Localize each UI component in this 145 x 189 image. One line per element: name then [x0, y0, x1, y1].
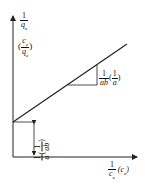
y-alt-den-sub: e — [26, 52, 28, 57]
intercept-den: a — [42, 155, 51, 161]
slope-num: 1 — [101, 70, 107, 78]
x-label-sub: e — [113, 175, 115, 180]
intercept-alt-den: ab — [42, 142, 51, 152]
diagram: 1qe (ceqe) 1ab(1a) 1a(1ab) 1ce (ce) — [0, 0, 145, 189]
y-axis-alt-label: (ceqe) — [18, 37, 32, 57]
y-label-sub: e — [25, 26, 27, 31]
intercept-alt-num: 1 — [34, 144, 42, 150]
slope-label: 1ab(1a) — [99, 70, 120, 87]
intercept-num: 1 — [34, 155, 42, 161]
x-alt-close: ) — [126, 165, 129, 174]
x-axis-label: 1ce (ce) — [108, 161, 129, 180]
x-label-num: 1 — [109, 161, 115, 169]
slope-den: ab — [99, 78, 109, 87]
slope-alt-num: 1 — [112, 70, 118, 78]
y-label-num: 1 — [21, 12, 27, 20]
intercept-label: 1a(1ab) — [34, 121, 51, 161]
y-axis-label: 1qe — [20, 12, 28, 31]
slope-alt-den: a — [112, 78, 118, 87]
